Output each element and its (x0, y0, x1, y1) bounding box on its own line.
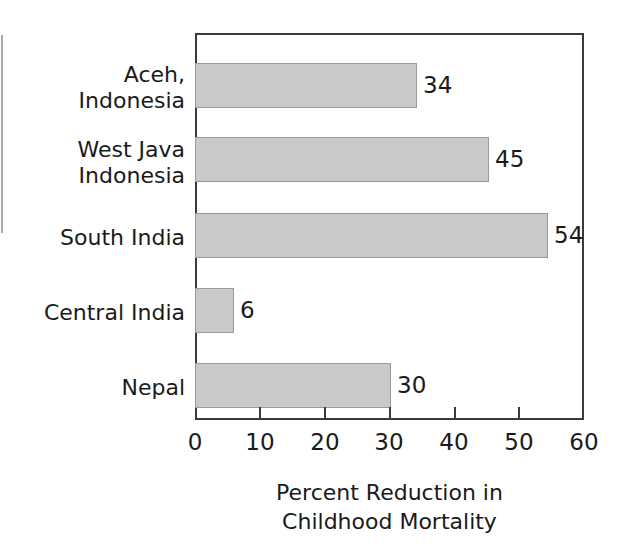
x-axis-tick-label-0: 0 (165, 428, 225, 456)
bar-value-nepal: 30 (397, 363, 426, 408)
x-axis-tick-label-10: 10 (230, 428, 290, 456)
x-axis-tick-label-30: 30 (359, 428, 419, 456)
x-axis-tick-label-40: 40 (424, 428, 484, 456)
bar-value-west-java-indonesia: 45 (495, 137, 524, 182)
x-axis-tick-40 (454, 407, 456, 420)
x-axis-title: Percent Reduction in Childhood Mortality (195, 478, 584, 536)
category-label-south-india: South India (0, 225, 185, 251)
x-axis-tick-label-20: 20 (295, 428, 355, 456)
bar-value-south-india: 54 (554, 213, 583, 258)
bar-value-central-india: 6 (240, 288, 255, 333)
bar-nepal (195, 363, 391, 408)
category-label-west-java-indonesia: West Java Indonesia (0, 137, 185, 189)
bar-south-india (195, 213, 548, 258)
bar-aceh-indonesia (195, 63, 417, 108)
bar-west-java-indonesia (195, 137, 489, 182)
bar-central-india (195, 288, 234, 333)
bar-chart: Aceh, Indonesia West Java Indonesia Sout… (0, 0, 636, 556)
x-axis-tick-10 (259, 407, 261, 420)
x-axis-tick-label-60: 60 (554, 428, 614, 456)
category-label-aceh-indonesia: Aceh, Indonesia (0, 62, 185, 114)
category-label-nepal: Nepal (0, 375, 185, 401)
category-label-central-india: Central India (0, 300, 185, 326)
x-axis-tick-30 (389, 407, 391, 420)
x-axis-tick-50 (518, 407, 520, 420)
x-axis-tick-20 (324, 407, 326, 420)
bar-value-aceh-indonesia: 34 (423, 63, 452, 108)
x-axis-tick-label-50: 50 (489, 428, 549, 456)
bars-layer: 34 45 54 6 30 (195, 33, 584, 420)
